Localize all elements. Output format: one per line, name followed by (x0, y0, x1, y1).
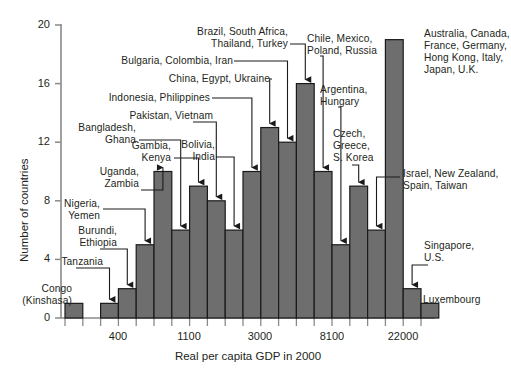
annotation-bangladesh-line1: Bangladesh, (56, 122, 136, 134)
annotation-israel-line1: Israel, New Zealand, (403, 168, 511, 180)
y-tick-0: 0 (28, 311, 50, 323)
bar (118, 289, 136, 318)
x-tick-3000: 3000 (230, 330, 290, 342)
x-axis-ticks (65, 318, 421, 326)
annotation-brazil-line2: Thailand, Turkey (166, 38, 288, 50)
y-tick-12: 12 (28, 135, 50, 147)
annotation-australia-line2: France, Germany, (424, 40, 511, 52)
y-axis-label: Number of countries (18, 158, 30, 262)
bar (385, 40, 403, 318)
annotation-gambia-line1: Gambia, (125, 140, 171, 152)
annotation-congo-line2: (Kinshasa) (12, 295, 72, 307)
plot-area: 0 4 8 12 16 20 400 1100 3000 8100 22000 … (0, 0, 511, 375)
bar (101, 303, 119, 318)
annotation-bangladesh-line2: Ghana (56, 134, 136, 146)
annotation-nigeria-line1: Nigeria, (38, 198, 100, 210)
y-tick-20: 20 (28, 18, 50, 30)
bar (368, 230, 386, 318)
annotation-czech-line3: S. Korea (333, 152, 391, 164)
x-axis-label: Real per capita GDP in 2000 (118, 350, 378, 362)
bar (279, 142, 297, 318)
annotation-bolivia-line2: India (170, 151, 215, 163)
leader-tanzania (76, 268, 110, 299)
annotation-luxembourg: Luxembourg (423, 294, 503, 306)
leader-brazil-southafrica-thailand-turkey (290, 44, 305, 80)
bar (190, 186, 208, 318)
bar (207, 201, 225, 318)
x-tick-400: 400 (88, 330, 148, 342)
x-tick-1100: 1100 (159, 330, 219, 342)
x-tick-22000: 22000 (373, 330, 433, 342)
annotation-nigeria-line2: Yemen (38, 210, 100, 222)
annotation-tanzania: Tanzania (43, 256, 103, 268)
annotation-china-egypt-ukraine: China, Egypt, Ukraine (140, 73, 270, 85)
histogram-figure: 0 4 8 12 16 20 400 1100 3000 8100 22000 … (0, 0, 511, 375)
annotation-congo-line1: Congo (20, 283, 72, 295)
x-tick-8100: 8100 (302, 330, 362, 342)
annotation-uganda-line2: Zambia (75, 178, 139, 190)
annotation-bulgaria-colombia-iran: Bulgaria, Colombia, Iran (88, 55, 233, 67)
annotation-czech-line1: Czech, (333, 128, 391, 140)
bar (261, 128, 279, 318)
annotation-australia-line4: Japan, U.K. (424, 64, 511, 76)
bar (225, 230, 243, 318)
annotation-singapore-line2: U.S. (424, 252, 494, 264)
annotation-burundi-line2: Ethiopia (55, 237, 117, 249)
annotation-czech-line2: Greece, (333, 140, 391, 152)
y-tick-16: 16 (28, 77, 50, 89)
bar (332, 245, 350, 318)
annotation-australia-line1: Australia, Canada, (424, 28, 511, 40)
annotation-australia-line3: Hong Kong, Italy, (424, 52, 511, 64)
annotation-chile-line2: Poland, Russia (307, 45, 401, 57)
leader-burundi-ethiopia (100, 249, 127, 285)
annotation-brazil-line1: Brazil, South Africa, (166, 26, 288, 38)
annotation-argentina-line2: Hungary (320, 96, 392, 108)
bar (154, 172, 172, 319)
annotation-bolivia-line1: Bolivia, (170, 139, 215, 151)
bar (403, 289, 421, 318)
y-axis-ticks (55, 25, 61, 318)
annotation-indonesia-philippines: Indonesia, Philippines (88, 92, 210, 104)
bar (296, 84, 314, 318)
annotation-pakistan-vietnam: Pakistan, Vietnam (115, 110, 213, 122)
leader-singapore-us (412, 265, 428, 285)
annotation-singapore-line1: Singapore, (424, 240, 494, 252)
bar (350, 186, 368, 318)
annotation-gambia-line2: Kenya (125, 152, 171, 164)
leader-chile-mexico-poland-russia (320, 56, 323, 168)
bar (314, 172, 332, 319)
annotation-burundi-line1: Burundi, (55, 225, 117, 237)
annotation-uganda-line1: Uganda, (75, 166, 139, 178)
annotation-israel-line2: Spain, Taiwan (403, 180, 511, 192)
leader-czech-greece-skorea (352, 165, 359, 182)
bar (136, 245, 154, 318)
bar (243, 172, 261, 319)
annotation-argentina-line1: Argentina, (320, 84, 392, 96)
annotation-chile-line1: Chile, Mexico, (307, 33, 401, 45)
bar (172, 230, 190, 318)
leader-china-egypt-ukraine (270, 79, 272, 124)
